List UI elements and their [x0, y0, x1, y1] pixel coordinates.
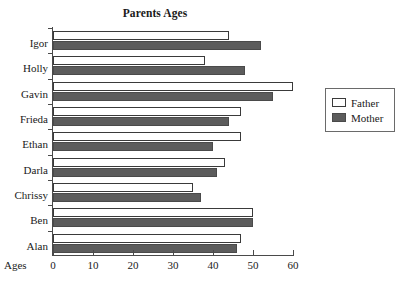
y-axis-category-label: Gavin	[0, 88, 48, 100]
y-axis-category-label: Holly	[0, 62, 48, 74]
x-axis-tick-label: 0	[38, 259, 68, 271]
bar-father	[53, 56, 205, 65]
y-axis-category-label: Frieda	[0, 113, 48, 125]
bar-father	[53, 132, 241, 141]
x-axis-tick-label: 50	[238, 259, 268, 271]
x-axis-tick-label: 10	[78, 259, 108, 271]
x-axis-tick	[93, 250, 94, 256]
legend-swatch-father-icon	[332, 98, 346, 107]
plot-area	[53, 28, 293, 256]
bar-chart: Parents Ages IgorHollyGavinFriedaEthanDa…	[0, 0, 403, 284]
bar-mother	[53, 142, 213, 151]
y-axis-tick	[48, 129, 53, 130]
bar-mother	[53, 66, 245, 75]
y-axis-tick	[48, 79, 53, 80]
x-axis-tick	[253, 250, 254, 256]
x-axis-tick	[53, 250, 54, 256]
bar-mother	[53, 168, 217, 177]
y-axis-category-label: Darla	[0, 164, 48, 176]
bar-mother	[53, 117, 229, 126]
bar-mother	[53, 218, 253, 227]
bar-father	[53, 107, 241, 116]
legend-label-father: Father	[351, 97, 379, 109]
y-axis-tick	[48, 231, 53, 232]
y-axis-tick	[48, 155, 53, 156]
y-axis-tick	[48, 28, 53, 29]
bar-mother	[53, 41, 261, 50]
legend-item-father: Father	[332, 95, 389, 110]
bar-mother	[53, 193, 201, 202]
y-axis-category-label: Alan	[0, 240, 48, 252]
bar-father	[53, 158, 225, 167]
x-axis-title: Ages	[4, 259, 27, 271]
x-axis-tick-label: 40	[198, 259, 228, 271]
y-axis-tick	[48, 205, 53, 206]
x-axis-tick	[133, 250, 134, 256]
x-axis-tick-label: 60	[278, 259, 308, 271]
y-axis-category-labels: IgorHollyGavinFriedaEthanDarlaChrissyBen…	[0, 0, 48, 284]
y-axis-category-label: Ethan	[0, 138, 48, 150]
bar-father	[53, 234, 241, 243]
x-axis-tick-label: 20	[118, 259, 148, 271]
y-axis-category-label: Chrissy	[0, 189, 48, 201]
y-axis-tick	[48, 104, 53, 105]
x-axis-tick-label: 30	[158, 259, 188, 271]
legend-label-mother: Mother	[351, 112, 383, 124]
bar-father	[53, 183, 193, 192]
legend-item-mother: Mother	[332, 110, 389, 125]
x-axis-tick	[213, 250, 214, 256]
bar-mother	[53, 92, 273, 101]
y-axis-category-label: Ben	[0, 214, 48, 226]
x-axis-tick	[293, 250, 294, 256]
y-axis-tick	[48, 53, 53, 54]
y-axis-tick	[48, 180, 53, 181]
bar-father	[53, 208, 253, 217]
chart-legend: Father Mother	[325, 88, 395, 132]
bar-father	[53, 31, 229, 40]
x-axis-tick	[173, 250, 174, 256]
legend-swatch-mother-icon	[332, 113, 346, 122]
bar-mother	[53, 244, 237, 253]
y-axis-category-label: Igor	[0, 37, 48, 49]
bar-father	[53, 82, 293, 91]
